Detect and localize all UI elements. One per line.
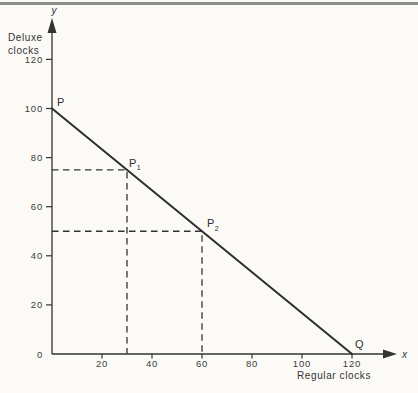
- y-tick-label-120: 120: [25, 54, 43, 65]
- x-axis-letter: x: [401, 349, 408, 360]
- x-axis-arrowhead: [383, 350, 397, 359]
- y-axis-title-line1: Deluxe: [8, 32, 43, 43]
- point-label-P1: P1: [129, 157, 141, 172]
- point-label-P2: P2: [207, 217, 219, 232]
- x-tick-label-100: 100: [293, 358, 311, 369]
- y-tick-label-60: 60: [31, 201, 43, 212]
- point-label-subscript-P1: 1: [137, 164, 141, 171]
- x-tick-label-40: 40: [146, 358, 158, 369]
- x-tick-label-120: 120: [343, 358, 361, 369]
- point-label-Q: Q: [355, 338, 364, 350]
- y-tick-label-100: 100: [25, 103, 43, 114]
- clock-production-chart: Deluxe clocks Regular clocks y x 2040608…: [0, 0, 418, 393]
- guide-lines-P1: [52, 170, 127, 354]
- figure-page: Deluxe clocks Regular clocks y x 2040608…: [0, 0, 418, 393]
- point-label-P: P: [57, 96, 65, 108]
- y-tick-label-0: 0: [37, 349, 43, 360]
- y-tick-label-40: 40: [31, 250, 43, 261]
- point-label-subscript-P2: 2: [215, 225, 219, 232]
- x-tick-label-60: 60: [196, 358, 208, 369]
- y-tick-label-20: 20: [31, 299, 43, 310]
- plot-area: 20406080100120020406080100120PP1P2Q: [25, 18, 397, 369]
- y-axis-letter: y: [51, 5, 58, 16]
- x-tick-label-80: 80: [246, 358, 258, 369]
- x-axis-title: Regular clocks: [297, 370, 371, 381]
- y-tick-label-80: 80: [31, 152, 43, 163]
- x-tick-label-20: 20: [96, 358, 108, 369]
- y-axis-arrowhead: [48, 18, 57, 33]
